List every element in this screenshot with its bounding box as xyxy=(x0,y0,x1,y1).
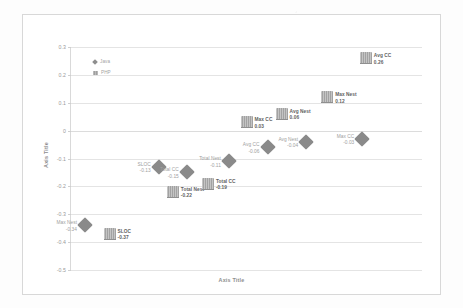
data-label-name: Total Nest xyxy=(181,187,204,192)
data-label-value: -0.37 xyxy=(118,235,132,241)
data-label-php-avg-cc: Avg CC0.26 xyxy=(374,53,391,66)
x-axis-title: Axis Title xyxy=(23,277,440,283)
data-label-name: SLOC xyxy=(137,162,150,167)
data-label-value: 0.03 xyxy=(255,124,273,130)
data-point-php-avg-nest[interactable] xyxy=(276,108,288,120)
y-tick-mark-6 xyxy=(68,214,71,215)
y-tick-label-6: -0.3 xyxy=(57,211,66,217)
legend-item-java[interactable]: Java xyxy=(93,59,111,64)
y-tick-label-5: -0.2 xyxy=(57,183,66,189)
y-tick-label-8: -0.5 xyxy=(57,267,66,273)
data-label-name: Avg CC xyxy=(243,142,260,147)
data-point-java-total-nest[interactable] xyxy=(221,154,237,170)
gridline-0.3 xyxy=(71,47,422,48)
y-tick-mark-3 xyxy=(68,131,71,132)
gridline-0.1 xyxy=(71,103,422,104)
data-label-value: -0.19 xyxy=(216,185,236,191)
data-label-value: -0.15 xyxy=(160,174,179,180)
data-label-java-total-nest: Total Nest-0.11 xyxy=(199,156,221,169)
data-label-value: -0.13 xyxy=(137,168,150,174)
y-tick-mark-0 xyxy=(68,47,71,48)
diamond-marker-icon xyxy=(92,59,98,65)
gridline--0.1 xyxy=(71,159,422,160)
gridline--0.3 xyxy=(71,214,422,215)
data-label-value: -0.06 xyxy=(243,149,260,155)
gridline-0.2 xyxy=(71,75,422,76)
data-label-php-avg-nest: Avg Nest0.06 xyxy=(290,109,311,122)
y-axis-title: Axis Title xyxy=(43,142,49,168)
y-tick-label-7: -0.4 xyxy=(57,239,66,245)
data-label-name: Max CC xyxy=(255,117,273,122)
y-tick-label-0: 0.3 xyxy=(58,44,66,50)
data-point-java-max-cc[interactable] xyxy=(355,131,371,147)
gridline--0.5 xyxy=(71,270,422,271)
y-tick-mark-7 xyxy=(68,242,71,243)
data-point-java-total-cc[interactable] xyxy=(179,165,195,181)
data-label-php-sloc: SLOC-0.37 xyxy=(118,229,132,242)
data-point-php-avg-cc[interactable] xyxy=(360,52,372,64)
data-label-name: SLOC xyxy=(118,229,132,234)
data-label-name: Avg CC xyxy=(374,53,391,58)
data-point-java-max-nest[interactable] xyxy=(77,218,93,234)
data-label-name: Avg Nest xyxy=(290,109,311,114)
data-label-name: Avg Nest xyxy=(278,137,298,142)
data-label-name: Total CC xyxy=(160,167,179,172)
data-label-value: -0.11 xyxy=(199,163,221,169)
data-label-java-total-cc: Total CC-0.15 xyxy=(160,167,179,180)
gridline--0.4 xyxy=(71,242,422,243)
y-tick-mark-5 xyxy=(68,186,71,187)
y-tick-mark-8 xyxy=(68,270,71,271)
data-label-php-max-nest: Max Nest0.12 xyxy=(335,92,356,105)
y-tick-label-3: 0 xyxy=(63,128,66,134)
data-label-php-total-cc: Total CC-0.19 xyxy=(216,179,236,192)
data-label-value: 0.26 xyxy=(374,60,391,66)
chart-legend: Java PHP xyxy=(93,59,111,81)
gridline--0.2 xyxy=(71,186,422,187)
gridline-zero xyxy=(71,131,422,132)
y-tick-mark-2 xyxy=(68,103,71,104)
data-point-php-sloc[interactable] xyxy=(104,228,116,240)
data-label-java-avg-cc: Avg CC-0.06 xyxy=(243,142,260,155)
plot-area: 0.3 0.2 0.1 0 -0.1 -0.2 -0.3 -0.4 -0.5 J xyxy=(70,47,422,270)
data-point-java-avg-cc[interactable] xyxy=(260,140,276,156)
data-label-value: -0.03 xyxy=(337,140,355,146)
data-label-php-total-nest: Total Nest-0.22 xyxy=(181,187,204,200)
data-label-name: Max Nest xyxy=(335,92,356,97)
data-label-name: Max Nest xyxy=(56,220,77,225)
bar-marker-icon xyxy=(93,71,98,75)
y-tick-label-1: 0.2 xyxy=(58,72,66,78)
chart-object-frame: Axis Title Axis Title 0.3 0.2 0.1 0 -0.1… xyxy=(22,14,441,295)
data-point-php-total-cc[interactable] xyxy=(202,178,214,190)
data-label-value: -0.22 xyxy=(181,193,204,199)
legend-item-php[interactable]: PHP xyxy=(93,70,111,75)
data-label-name: Total CC xyxy=(216,179,236,184)
data-point-java-avg-nest[interactable] xyxy=(298,134,314,150)
data-label-name: Max CC xyxy=(337,134,355,139)
data-label-value: 0.06 xyxy=(290,115,311,121)
legend-label-php: PHP xyxy=(101,70,111,75)
y-tick-label-4: -0.1 xyxy=(57,156,66,162)
y-tick-label-2: 0.1 xyxy=(58,100,66,106)
data-point-php-max-cc[interactable] xyxy=(241,116,253,128)
data-label-java-max-cc: Max CC-0.03 xyxy=(337,134,355,147)
y-tick-mark-4 xyxy=(68,159,71,160)
data-label-name: Total Nest xyxy=(199,156,221,161)
data-label-java-max-nest: Max Nest-0.34 xyxy=(56,220,77,233)
data-label-value: 0.12 xyxy=(335,99,356,105)
data-label-php-max-cc: Max CC0.03 xyxy=(255,117,273,130)
data-label-value: -0.34 xyxy=(56,227,77,233)
y-tick-mark-1 xyxy=(68,75,71,76)
data-label-java-avg-nest: Avg Nest-0.04 xyxy=(278,137,298,150)
data-label-java-sloc: SLOC-0.13 xyxy=(137,162,150,175)
data-label-value: -0.04 xyxy=(278,143,298,149)
data-point-php-total-nest[interactable] xyxy=(167,186,179,198)
legend-label-java: Java xyxy=(100,59,110,64)
data-point-php-max-nest[interactable] xyxy=(321,91,333,103)
